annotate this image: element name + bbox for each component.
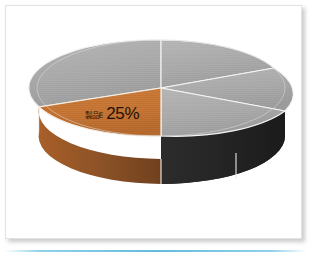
slide-canvas: 製品E 25% (0, 0, 311, 256)
chart-card: 製品E 25% (5, 5, 302, 239)
pie-texture-overlay (37, 40, 285, 136)
pie-chart-plot-area: 製品E 25% (6, 6, 311, 256)
pie-chart-svg (6, 6, 311, 256)
bottom-accent-rule (4, 250, 307, 252)
